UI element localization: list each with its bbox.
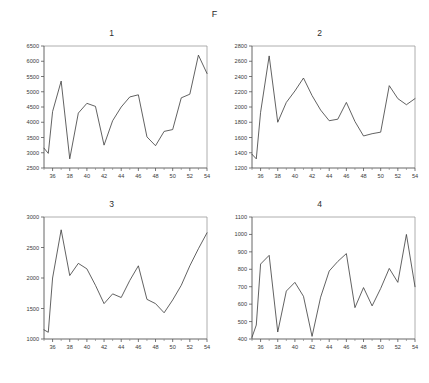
chart-plot-3: 1000150020002500300036384042444648505254 [8,211,215,371]
svg-text:42: 42 [101,344,107,350]
svg-text:2800: 2800 [235,43,247,49]
svg-text:44: 44 [326,344,332,350]
series-line-2 [252,56,415,159]
svg-text:40: 40 [292,173,298,179]
svg-text:500: 500 [238,319,247,325]
svg-text:44: 44 [326,173,332,179]
svg-text:40: 40 [84,344,90,350]
svg-text:48: 48 [152,344,158,350]
svg-text:1800: 1800 [235,119,247,125]
svg-text:42: 42 [101,173,107,179]
svg-text:46: 46 [343,344,349,350]
svg-text:40: 40 [84,173,90,179]
svg-text:46: 46 [135,344,141,350]
svg-text:54: 54 [412,344,418,350]
chart-panel-3: 3 10001500200025003000363840424446485052… [8,199,215,371]
svg-text:52: 52 [187,173,193,179]
svg-text:52: 52 [395,173,401,179]
svg-text:2600: 2600 [235,58,247,64]
svg-text:1400: 1400 [235,150,247,156]
svg-text:3500: 3500 [27,135,39,141]
svg-text:44: 44 [118,344,124,350]
svg-text:38: 38 [67,173,73,179]
svg-text:36: 36 [257,344,263,350]
svg-text:400: 400 [238,336,247,342]
svg-text:5000: 5000 [27,89,39,95]
chart-title-2: 2 [216,28,423,38]
svg-text:1000: 1000 [27,336,39,342]
series-line-3 [44,230,207,332]
svg-text:2400: 2400 [235,74,247,80]
svg-text:48: 48 [360,173,366,179]
chart-plot-2: 1200140016001800200022002400260028003638… [216,40,423,200]
svg-text:54: 54 [204,173,210,179]
svg-text:38: 38 [275,173,281,179]
svg-text:1000: 1000 [235,231,247,237]
svg-text:54: 54 [412,173,418,179]
svg-text:4000: 4000 [27,119,39,125]
svg-text:1200: 1200 [235,165,247,171]
svg-text:36: 36 [257,173,263,179]
svg-text:1500: 1500 [27,306,39,312]
svg-text:2000: 2000 [27,275,39,281]
svg-text:6000: 6000 [27,58,39,64]
svg-text:46: 46 [135,173,141,179]
svg-text:600: 600 [238,301,247,307]
chart-plot-1: 2500300035004000450050005500600065003638… [8,40,215,200]
figure-root: F 1 250030003500400045005000550060006500… [0,0,429,383]
svg-text:42: 42 [309,344,315,350]
chart-panel-4: 4 40050060070080090010001100363840424446… [216,199,423,371]
svg-text:2500: 2500 [27,165,39,171]
svg-text:38: 38 [67,344,73,350]
series-line-4 [252,234,415,337]
chart-panel-1: 1 25003000350040004500500055006000650036… [8,28,215,200]
svg-text:3000: 3000 [27,150,39,156]
svg-text:800: 800 [238,266,247,272]
svg-text:48: 48 [152,173,158,179]
svg-text:1600: 1600 [235,135,247,141]
chart-title-4: 4 [216,199,423,209]
svg-text:4500: 4500 [27,104,39,110]
chart-panel-2: 2 12001400160018002000220024002600280036… [216,28,423,200]
svg-text:46: 46 [343,173,349,179]
svg-text:1100: 1100 [235,214,247,220]
svg-text:900: 900 [238,249,247,255]
svg-text:2500: 2500 [27,245,39,251]
svg-text:50: 50 [378,173,384,179]
chart-plot-4: 4005006007008009001000110036384042444648… [216,211,423,371]
svg-text:36: 36 [49,344,55,350]
svg-text:6500: 6500 [27,43,39,49]
svg-text:42: 42 [309,173,315,179]
svg-text:36: 36 [49,173,55,179]
svg-text:2200: 2200 [235,89,247,95]
svg-text:50: 50 [378,344,384,350]
series-line-1 [44,55,207,159]
svg-text:48: 48 [360,344,366,350]
svg-text:50: 50 [170,173,176,179]
svg-text:38: 38 [275,344,281,350]
svg-text:40: 40 [292,344,298,350]
chart-title-3: 3 [8,199,215,209]
chart-title-1: 1 [8,28,215,38]
svg-text:3000: 3000 [27,214,39,220]
svg-text:54: 54 [204,344,210,350]
svg-text:700: 700 [238,284,247,290]
svg-text:52: 52 [395,344,401,350]
svg-text:50: 50 [170,344,176,350]
svg-text:44: 44 [118,173,124,179]
svg-text:52: 52 [187,344,193,350]
svg-text:2000: 2000 [235,104,247,110]
svg-text:5500: 5500 [27,74,39,80]
group-label: F [0,9,429,19]
